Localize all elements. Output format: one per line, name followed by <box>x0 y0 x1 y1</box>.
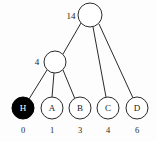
node-leaf-b: B 3 <box>69 97 91 135</box>
leaf-b-index: 3 <box>78 125 82 135</box>
node-internal: 4 <box>35 51 66 73</box>
leaf-b-label: B <box>77 103 83 113</box>
node-leaf-d: D 6 <box>126 97 148 135</box>
edge-root-to-internal <box>63 23 81 54</box>
edge-internal-to-leaf-h <box>29 70 47 99</box>
root-node-circle <box>78 3 102 27</box>
tree-diagram-canvas: 14 4 H 0 A 1 B 3 C 4 D 6 <box>0 0 157 141</box>
leaf-a-index: 1 <box>50 125 54 135</box>
edge-root-to-leaf-c <box>93 27 106 97</box>
node-leaf-h: H 0 <box>12 97 34 135</box>
node-leaf-c: C 4 <box>97 97 119 135</box>
leaf-a-label: A <box>49 103 56 113</box>
node-leaf-a: A 1 <box>41 97 63 135</box>
leaf-h-label: H <box>20 103 27 113</box>
node-root: 14 <box>67 3 103 27</box>
internal-node-circle <box>44 51 66 73</box>
leaf-d-index: 6 <box>135 125 139 135</box>
internal-weight-label: 4 <box>35 57 40 67</box>
edge-internal-to-leaf-a <box>52 73 54 97</box>
leaf-c-label: C <box>105 103 111 113</box>
leaf-c-index: 4 <box>106 125 111 135</box>
tree-diagram-figure: 14 4 H 0 A 1 B 3 C 4 D 6 <box>0 0 157 141</box>
edge-internal-to-leaf-b <box>63 70 75 99</box>
leaf-d-label: D <box>134 103 141 113</box>
leaf-h-index: 0 <box>21 125 25 135</box>
root-weight-label: 14 <box>67 11 77 21</box>
